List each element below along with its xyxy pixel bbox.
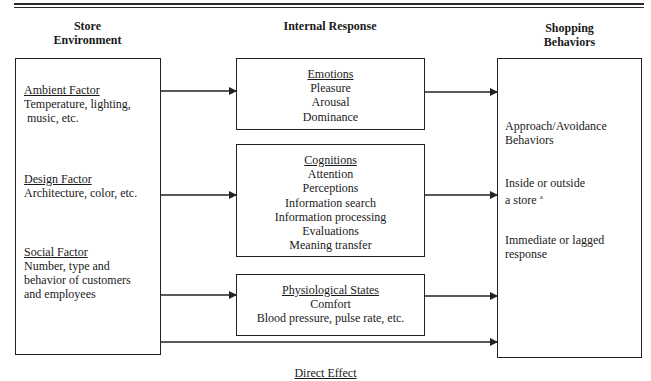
cognitions-item-attention: Attention: [237, 167, 424, 181]
behavior-immediate-lagged: Immediate or lagged response: [505, 233, 604, 261]
physiological-item-comfort: Comfort: [237, 297, 424, 311]
cognitions-content: Cognitions Attention Perceptions Informa…: [237, 153, 424, 252]
physiological-title: Physiological States: [282, 283, 379, 297]
top-rule-2: [14, 7, 644, 8]
social-factor-line2: behavior of customers: [24, 273, 131, 287]
social-factor-line1: Number, type and: [24, 259, 131, 273]
store-environment-box: Ambient Factor Temperature, lighting, mu…: [15, 58, 161, 355]
physiological-content: Physiological States Comfort Blood press…: [237, 283, 424, 326]
behavior-inside-line1: Inside or outside: [505, 176, 585, 190]
emotions-item-arousal: Arousal: [237, 95, 424, 109]
design-factor-title: Design Factor: [24, 172, 92, 186]
behavior-inside-line2-wrap: a store a: [505, 190, 585, 207]
header-internal-response: Internal Response: [236, 19, 424, 33]
social-factor-title: Social Factor: [24, 245, 88, 259]
direct-effect-label: Direct Effect: [294, 366, 356, 380]
cognitions-box: Cognitions Attention Perceptions Informa…: [236, 144, 425, 257]
physiological-states-box: Physiological States Comfort Blood press…: [236, 274, 425, 336]
header-store-environment-line1: Store: [15, 19, 160, 33]
behavior-approach-line1: Approach/Avoidance: [505, 119, 607, 133]
cognitions-item-information-search: Information search: [237, 196, 424, 210]
behavior-immediate-line2: response: [505, 247, 604, 261]
header-shopping-behaviors-line1: Shopping: [498, 21, 641, 35]
emotions-content: Emotions Pleasure Arousal Dominance: [237, 67, 424, 124]
emotions-box: Emotions Pleasure Arousal Dominance: [236, 58, 425, 130]
social-factor-line3: and employees: [24, 287, 131, 301]
ambient-factor-line1: Temperature, lighting,: [24, 97, 131, 111]
header-internal-response-label: Internal Response: [236, 19, 424, 33]
social-factor: Social Factor Number, type and behavior …: [24, 245, 131, 301]
behavior-inside-line2: a store: [505, 193, 537, 207]
cognitions-item-evaluations: Evaluations: [237, 224, 424, 238]
behavior-inside-outside: Inside or outside a store a: [505, 176, 585, 207]
top-rule-1: [14, 3, 644, 5]
behavior-immediate-line1: Immediate or lagged: [505, 233, 604, 247]
direct-effect-label-wrap: Direct Effect: [0, 366, 651, 381]
behavior-approach-avoidance: Approach/Avoidance Behaviors: [505, 119, 607, 147]
emotions-item-pleasure: Pleasure: [237, 81, 424, 95]
design-factor: Design Factor Architecture, color, etc.: [24, 172, 137, 200]
cognitions-item-meaning-transfer: Meaning transfer: [237, 238, 424, 252]
cognitions-title: Cognitions: [304, 153, 357, 167]
header-shopping-behaviors-line2: Behaviors: [498, 35, 641, 49]
physiological-item-blood-pressure: Blood pressure, pulse rate, etc.: [237, 311, 424, 325]
behavior-approach-line2: Behaviors: [505, 133, 607, 147]
emotions-title: Emotions: [307, 67, 353, 81]
ambient-factor: Ambient Factor Temperature, lighting, mu…: [24, 83, 131, 125]
header-store-environment-line2: Environment: [15, 33, 160, 47]
ambient-factor-line2: music, etc.: [24, 111, 131, 125]
ambient-factor-title: Ambient Factor: [24, 83, 100, 97]
header-store-environment: Store Environment: [15, 19, 160, 47]
cognitions-item-perceptions: Perceptions: [237, 181, 424, 195]
footnote-marker: a: [540, 193, 543, 201]
shopping-behaviors-box: Approach/Avoidance Behaviors Inside or o…: [497, 58, 642, 358]
design-factor-line1: Architecture, color, etc.: [24, 186, 137, 200]
emotions-item-dominance: Dominance: [237, 110, 424, 124]
cognitions-item-information-processing: Information processing: [237, 210, 424, 224]
header-shopping-behaviors: Shopping Behaviors: [498, 21, 641, 49]
